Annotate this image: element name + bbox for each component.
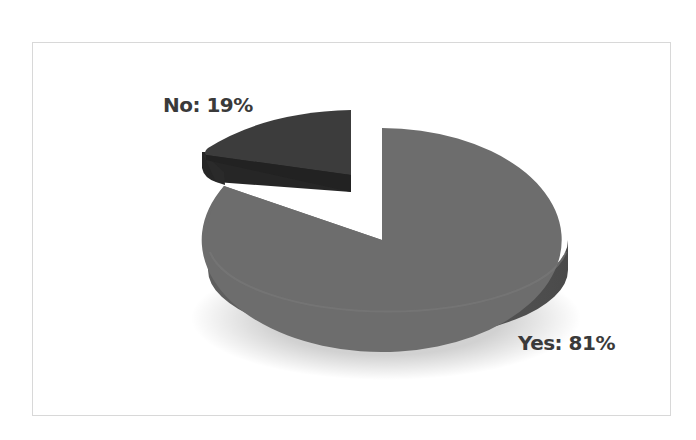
data-label-yes: Yes: 81%: [518, 331, 615, 355]
data-label-no: No: 19%: [163, 93, 253, 117]
pie-chart: [0, 0, 696, 440]
pie-slice-no[interactable]: [202, 110, 351, 192]
